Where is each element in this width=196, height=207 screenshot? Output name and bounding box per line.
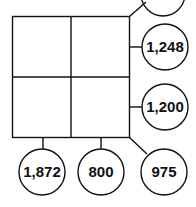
- row2-sum-label: 1,200: [146, 98, 184, 115]
- connector-bottom-diagonal: [130, 138, 148, 155]
- col1-sum-label: 1,872: [23, 163, 61, 180]
- row1-sum-label: 1,248: [146, 38, 184, 55]
- circle-top-diagonal: [141, 0, 185, 16]
- sum-grid-diagram: 1,248 1,200 1,872 800 975: [0, 0, 196, 207]
- bottom-diagonal-sum-label: 975: [151, 163, 176, 180]
- col2-sum-label: 800: [88, 163, 113, 180]
